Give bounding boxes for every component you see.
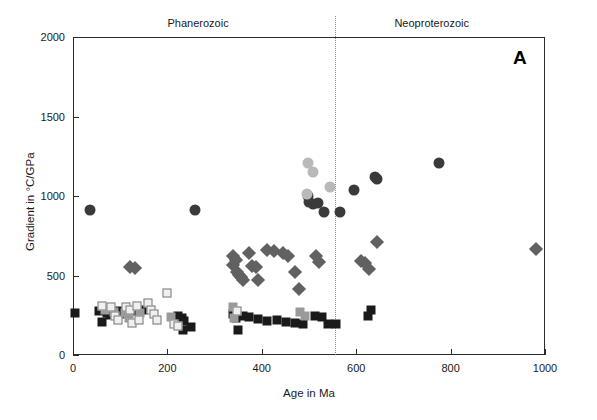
y-axis-ticklabel: 1500 [11,111,65,123]
x-axis-tick [262,349,263,355]
y-axis-tick [73,276,79,277]
data-point-squares-open [233,307,242,316]
x-axis-ticklabel: 400 [253,362,271,374]
x-axis-ticklabel: 600 [347,362,365,374]
y-axis-tick [73,196,79,197]
x-axis-ticklabel: 800 [441,362,459,374]
data-point-squares-black [244,312,253,321]
era-label-neoproterozoic: Neoproterozoic [394,17,469,29]
data-point-circles-light [307,167,318,178]
data-point-squares-open [114,316,123,325]
data-point-squares-black [187,323,196,332]
y-axis-tick [73,355,79,356]
data-point-squares-black [71,308,80,317]
y-axis-ticklabel: 500 [11,270,65,282]
x-axis-ticklabel: 1000 [533,362,557,374]
data-point-squares-black [367,305,376,314]
data-point-squares-black [254,315,263,324]
x-axis-tick [545,349,546,355]
x-axis-ticklabel: 200 [158,362,176,374]
panel-letter: A [513,47,527,69]
data-point-squares-black [332,319,341,328]
x-axis-title: Age in Ma [283,387,335,399]
data-point-circles-light [325,182,336,193]
y-axis-ticklabel: 2000 [11,31,65,43]
data-point-circles-dark [85,205,96,216]
data-point-squares-open [173,322,182,331]
data-point-squares-black [263,316,272,325]
data-point-circles-dark [433,157,444,168]
data-point-circles-dark [372,173,383,184]
data-point-squares-open [163,288,172,297]
data-point-squares-gray [301,312,310,321]
data-point-circles-dark [319,206,330,217]
y-axis-title: Gradient in °C/GPa [24,152,36,251]
data-point-squares-open [135,316,144,325]
data-point-circles-light [301,189,312,200]
data-point-circles-dark [348,185,359,196]
figure-panel-a: PhanerozoicNeoproterozoic 02004006008001… [0,0,597,420]
x-axis-ticklabel: 0 [70,362,76,374]
y-axis-ticklabel: 0 [11,349,65,361]
x-axis-tick [167,349,168,355]
x-axis-tick [356,349,357,355]
y-axis-ticklabel: 1000 [11,190,65,202]
data-point-squares-open [132,301,141,310]
data-point-squares-black [98,318,107,327]
data-point-squares-black [234,325,243,334]
data-point-squares-open [153,315,162,324]
y-axis-tick [73,37,79,38]
data-point-circles-dark [334,206,345,217]
data-point-squares-open [106,303,115,312]
y-axis-tick [73,117,79,118]
data-point-squares-black [272,316,281,325]
data-point-circles-dark [189,204,200,215]
x-axis-tick [451,349,452,355]
era-label-phanerozoic: Phanerozoic [168,17,229,29]
